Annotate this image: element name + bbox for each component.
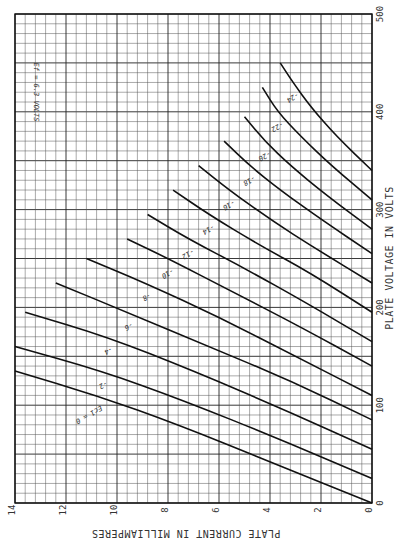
curve-label: Ec1 = 0	[74, 404, 104, 426]
plate-curves	[15, 63, 372, 503]
tube-plate-characteristics-chart: Ec1 = 0-2-4-6-8-10-12-14-16-18-20-22-24 …	[0, 0, 405, 540]
x-axis-label: PLATE VOLTAGE IN VOLTS	[384, 186, 395, 329]
x-tick-label: 100	[375, 397, 385, 413]
y-tick-label: 4	[262, 507, 272, 512]
y-tick-label: 0	[364, 507, 374, 512]
plate-curve	[280, 63, 372, 171]
curve-label: -14	[201, 223, 216, 236]
chart-grid	[15, 14, 372, 503]
curve-label: -8	[141, 291, 152, 302]
y-tick-label: 6	[211, 507, 221, 512]
y-tick-label: 12	[58, 505, 68, 516]
plate-curve	[56, 283, 372, 420]
plate-curve	[262, 87, 372, 199]
y-tick-label: 10	[109, 505, 119, 516]
curve-label: -6	[123, 321, 134, 332]
y-tick-label: 2	[313, 507, 323, 512]
filament-voltage-title: Ef = 6.3 VOLTS	[32, 62, 40, 121]
x-tick-label: 0	[375, 500, 385, 505]
y-tick-label: 14	[7, 505, 17, 516]
plate-curve	[173, 190, 372, 312]
x-tick-label: 500	[375, 6, 385, 22]
y-tick-label: 8	[160, 507, 170, 512]
plate-curve	[245, 117, 373, 229]
x-tick-label: 400	[375, 104, 385, 120]
y-axis-label: PLATE CURRENT IN MILLIAMPERES	[91, 528, 280, 539]
curve-label: -18	[242, 174, 257, 187]
